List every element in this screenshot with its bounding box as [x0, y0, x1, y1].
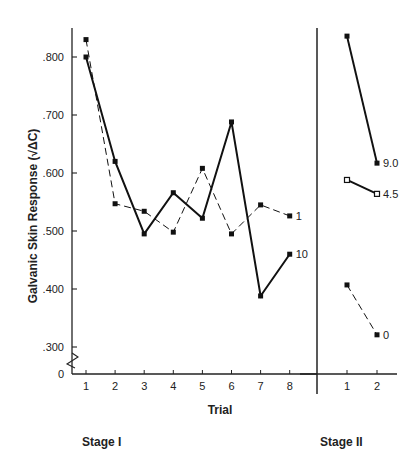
- data-point: [200, 216, 205, 221]
- data-point: [345, 177, 350, 182]
- x-tick-label: 1: [344, 380, 350, 392]
- data-point: [113, 201, 118, 206]
- y-tick-label: 0: [58, 368, 64, 380]
- data-point: [287, 252, 292, 257]
- x-tick-label: 3: [141, 380, 147, 392]
- series-line: [86, 57, 290, 296]
- x-tick-label: 8: [287, 380, 293, 392]
- data-point: [229, 231, 234, 236]
- series-0: 0: [345, 282, 390, 340]
- data-point: [287, 213, 292, 218]
- series-line: [347, 180, 377, 194]
- data-point: [345, 34, 350, 39]
- data-point: [258, 293, 263, 298]
- series-10: 10: [84, 55, 308, 299]
- y-tick-label: .500: [43, 225, 64, 237]
- stage2-label: Stage II: [320, 435, 363, 449]
- series-1: 1: [84, 37, 302, 236]
- data-point: [200, 166, 205, 171]
- x-tick-label: 7: [258, 380, 264, 392]
- x-axis-title: Trial: [208, 403, 233, 417]
- series-line: [347, 36, 377, 163]
- axes: [67, 28, 397, 394]
- x-tick-label: 2: [112, 380, 118, 392]
- data-point: [84, 37, 89, 42]
- data-point: [142, 209, 147, 214]
- series-line: [347, 285, 377, 335]
- series-4-5: 4.5: [345, 177, 399, 199]
- x-tick-label: 2: [374, 380, 380, 392]
- x-ticks: 1234567812: [83, 370, 380, 392]
- x-tick-label: 1: [83, 380, 89, 392]
- stage1-label: Stage I: [82, 435, 121, 449]
- y-axis-title: Galvanic Skin Response (√ΔC): [26, 129, 40, 304]
- gsr-chart: .800.700.600.500.400.3000 1234567812 110…: [0, 0, 418, 452]
- series-end-label: 1: [296, 210, 302, 222]
- data-point: [345, 282, 350, 287]
- data-point: [171, 230, 176, 235]
- series-layer: 1109.04.50: [84, 34, 399, 341]
- data-point: [258, 202, 263, 207]
- series-9-0: 9.0: [345, 34, 399, 170]
- series-end-label: 0: [383, 329, 389, 341]
- data-point: [375, 191, 380, 196]
- data-point: [375, 332, 380, 337]
- data-point: [84, 55, 89, 60]
- data-point: [113, 159, 118, 164]
- data-point: [142, 231, 147, 236]
- x-tick-label: 6: [228, 380, 234, 392]
- y-tick-label: .800: [43, 51, 64, 63]
- y-tick-label: .600: [43, 167, 64, 179]
- x-tick-label: 4: [170, 380, 176, 392]
- y-tick-label: .300: [43, 341, 64, 353]
- y-tick-label: .700: [43, 109, 64, 121]
- data-point: [229, 119, 234, 124]
- series-end-label: 10: [296, 248, 308, 260]
- x-tick-label: 5: [199, 380, 205, 392]
- data-point: [171, 190, 176, 195]
- y-tick-label: .400: [43, 283, 64, 295]
- series-end-label: 9.0: [383, 157, 398, 169]
- data-point: [375, 161, 380, 166]
- series-end-label: 4.5: [383, 188, 398, 200]
